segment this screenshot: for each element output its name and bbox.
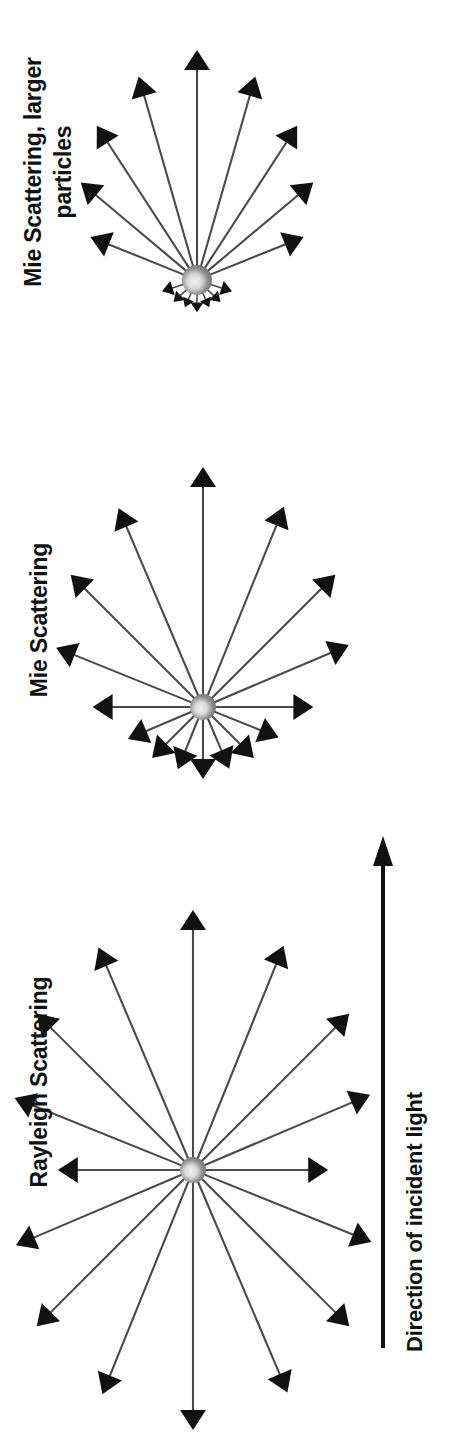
scatter-ray bbox=[51, 1179, 184, 1312]
scatter-arrowhead bbox=[293, 694, 313, 720]
scattering-particle bbox=[182, 265, 212, 295]
scatter-arrowhead bbox=[93, 694, 113, 720]
scattering-particle bbox=[180, 1157, 206, 1183]
scatter-arrowhead bbox=[58, 1157, 78, 1183]
scatter-ray bbox=[146, 712, 191, 731]
scatter-arrowhead bbox=[180, 1410, 206, 1430]
scatter-arrowhead bbox=[97, 126, 119, 150]
panel-title-mie: Mie Scattering bbox=[24, 470, 54, 770]
scatter-arrowhead bbox=[191, 303, 204, 313]
incident-light-arrow-icon bbox=[372, 836, 394, 1348]
scatter-ray bbox=[204, 142, 286, 269]
scatter-ray bbox=[205, 1103, 352, 1165]
scatter-ray bbox=[34, 1175, 181, 1237]
scatter-ray bbox=[108, 142, 190, 269]
scatter-ray bbox=[198, 1182, 280, 1374]
scatter-arrowhead bbox=[290, 182, 314, 205]
figure-canvas: Mie Scattering, larger particles Mie Sca… bbox=[0, 0, 459, 1440]
scatter-ray bbox=[110, 1182, 188, 1376]
scatter-ray bbox=[202, 1179, 335, 1312]
scatter-ray bbox=[51, 1028, 184, 1161]
scatter-arrowhead bbox=[190, 759, 216, 779]
scatter-arrowhead bbox=[81, 182, 105, 205]
scatter-arrowhead bbox=[275, 126, 297, 150]
incident-light-caption: Direction of incident light bbox=[402, 1022, 428, 1352]
scatter-arrowhead bbox=[184, 50, 210, 70]
panel-title-rayleigh: Rayleigh Scattering bbox=[24, 932, 54, 1232]
scatter-ray bbox=[215, 712, 260, 730]
scatter-ray bbox=[202, 1028, 335, 1161]
panel-title-mie-large: Mie Scattering, larger particles bbox=[18, 22, 78, 322]
scattering-particle bbox=[190, 694, 216, 720]
scatter-arrowhead bbox=[308, 1157, 328, 1183]
